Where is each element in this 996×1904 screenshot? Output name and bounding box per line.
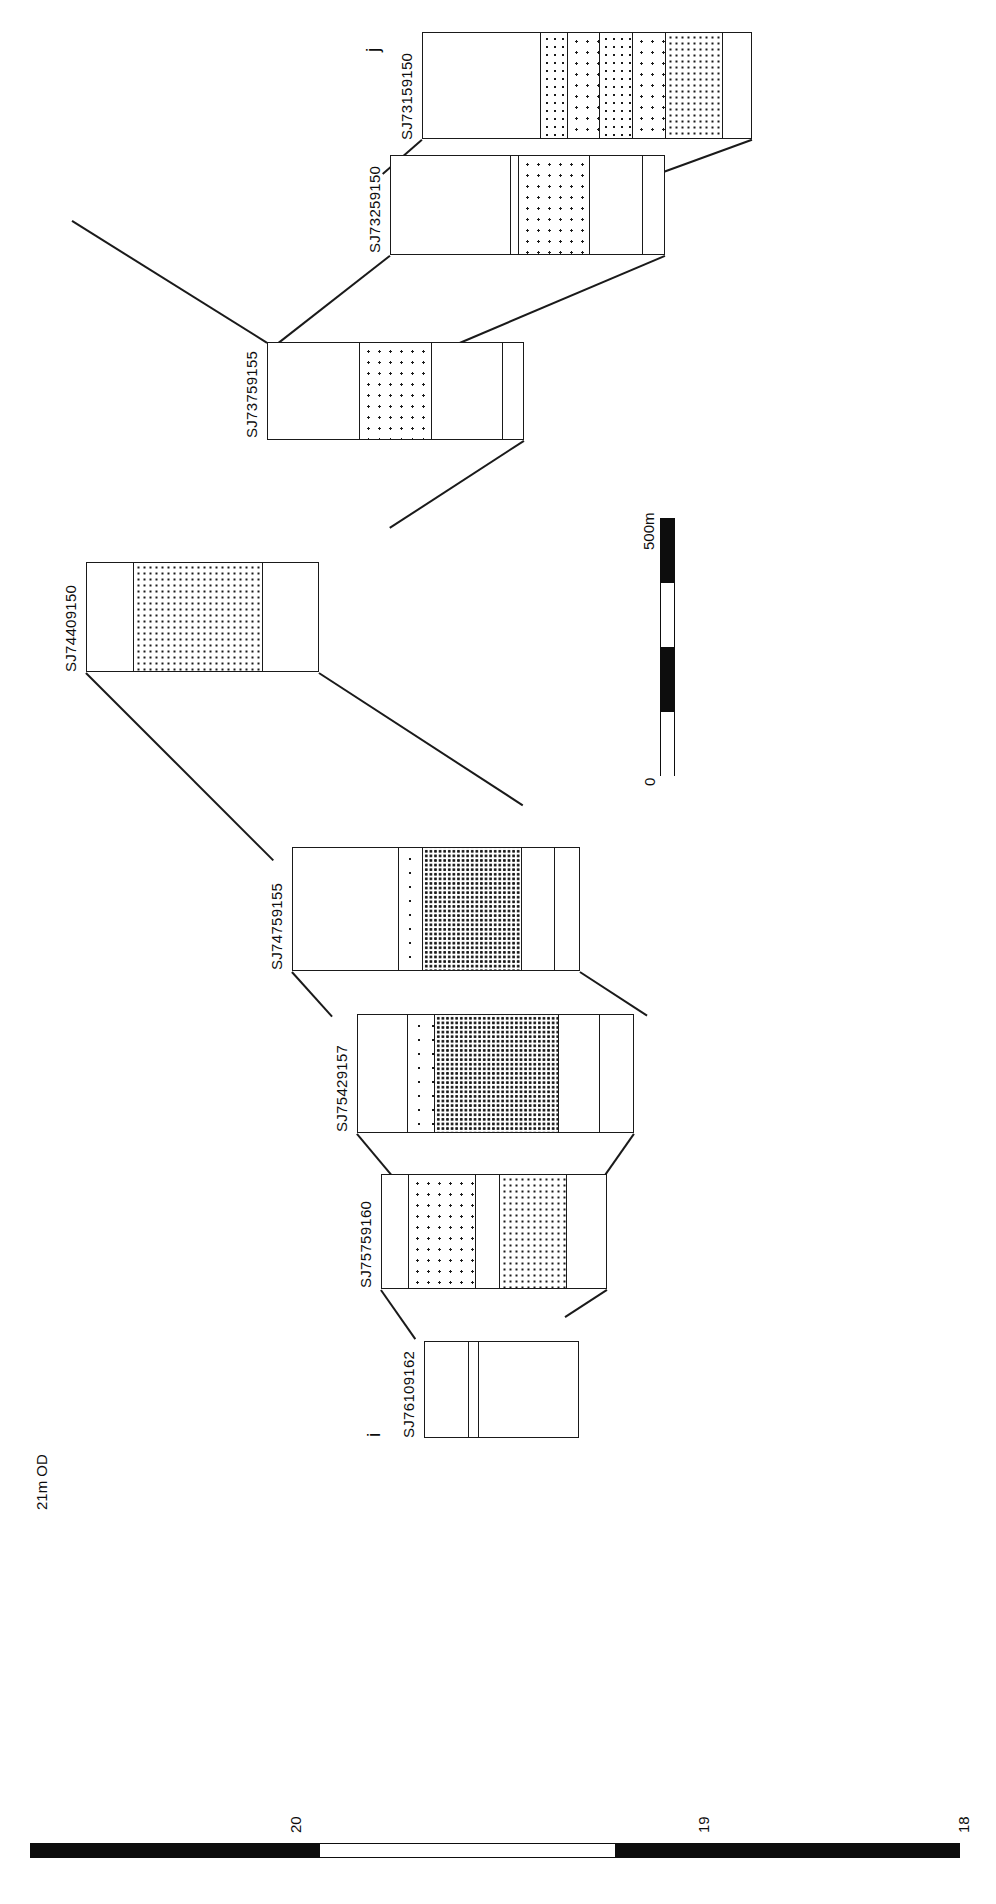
log-segment (469, 1342, 479, 1437)
borehole-log-SJ74409150[interactable] (86, 562, 319, 672)
borehole-log-SJ75429157[interactable] (357, 1014, 634, 1133)
borehole-log-SJ75759160[interactable] (381, 1174, 607, 1289)
log-segment (600, 33, 633, 138)
borehole-label-SJ73159150: SJ73159150 (398, 53, 415, 140)
log-segment (522, 848, 555, 970)
correlation-line (275, 255, 390, 346)
log-segment (555, 848, 579, 970)
figure-canvas: j SJ73159150 SJ73259150 SJ73759155 SJ74 (0, 0, 996, 1904)
elevation-tick-18: 18 (955, 1816, 972, 1833)
log-segment (503, 343, 523, 439)
log-segment (600, 1015, 633, 1132)
section-marker-i: i (363, 1433, 385, 1437)
log-segment (511, 156, 519, 254)
log-segment (87, 563, 134, 671)
borehole-label-SJ76109162: SJ76109162 (400, 1351, 417, 1438)
correlation-line (580, 971, 648, 1016)
correlation-line (71, 220, 267, 343)
log-segment (559, 1015, 601, 1132)
scale-segment (660, 583, 675, 647)
log-segment (268, 343, 360, 439)
elevation-axis-top-label: 21m OD (33, 1454, 50, 1510)
section-marker-j: j (362, 48, 384, 52)
log-segment (425, 1342, 469, 1437)
correlation-line (380, 1289, 416, 1339)
elevation-tick-19: 19 (695, 1816, 712, 1833)
log-segment (666, 33, 723, 138)
scale-segment (660, 518, 675, 583)
scale-segment (615, 1843, 960, 1858)
elevation-scale-bar (30, 1843, 960, 1858)
log-segment (643, 156, 664, 254)
log-segment (360, 343, 431, 439)
scale-segment (660, 647, 675, 712)
log-segment (263, 563, 318, 671)
correlation-line (85, 672, 274, 861)
log-segment (293, 848, 399, 970)
log-segment (399, 848, 423, 970)
borehole-log-SJ76109162[interactable] (424, 1341, 579, 1438)
borehole-log-SJ74759155[interactable] (292, 847, 580, 971)
log-segment (408, 1015, 436, 1132)
log-segment (476, 1175, 500, 1288)
borehole-label-SJ75429157: SJ75429157 (333, 1045, 350, 1132)
log-segment (382, 1175, 409, 1288)
borehole-label-SJ74759155: SJ74759155 (268, 883, 285, 970)
log-segment (134, 563, 264, 671)
log-segment (633, 33, 666, 138)
correlation-line (291, 971, 332, 1017)
log-segment (479, 1342, 578, 1437)
log-segment (567, 1175, 606, 1288)
scale-segment (660, 712, 675, 776)
borehole-log-SJ73159150[interactable] (422, 32, 752, 139)
log-segment (519, 156, 590, 254)
log-segment (541, 33, 568, 138)
log-segment (568, 33, 600, 138)
distance-scale-bar (660, 518, 675, 776)
correlation-line (389, 440, 524, 529)
log-segment (500, 1175, 567, 1288)
scale-segment (320, 1843, 615, 1858)
borehole-log-SJ73259150[interactable] (390, 155, 665, 255)
log-segment (590, 156, 643, 254)
elevation-tick-20: 20 (287, 1816, 304, 1833)
log-segment (358, 1015, 408, 1132)
distance-scale-min-label: 0 (641, 778, 658, 786)
correlation-line (458, 255, 666, 345)
log-segment (409, 1175, 476, 1288)
log-segment (423, 848, 522, 970)
log-segment (423, 33, 541, 138)
borehole-label-SJ75759160: SJ75759160 (357, 1201, 374, 1288)
log-segment (391, 156, 511, 254)
log-segment (432, 343, 503, 439)
borehole-label-SJ73759155: SJ73759155 (243, 351, 260, 438)
borehole-label-SJ73259150: SJ73259150 (366, 166, 383, 253)
borehole-label-SJ74409150: SJ74409150 (62, 585, 79, 672)
log-segment (723, 33, 751, 138)
log-segment (435, 1015, 558, 1132)
scale-segment (30, 1843, 320, 1858)
correlation-line (565, 1289, 608, 1318)
borehole-log-SJ73759155[interactable] (267, 342, 524, 440)
correlation-line (319, 672, 524, 806)
distance-scale-max-label: 500m (640, 512, 657, 550)
